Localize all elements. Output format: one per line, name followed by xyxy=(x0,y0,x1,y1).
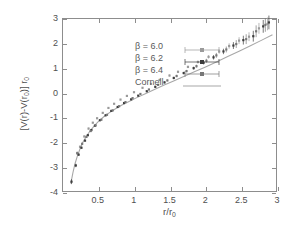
y-axis-label-text: [V(r)-V(r0)] r0 xyxy=(18,77,29,131)
y-tick-label: -4 xyxy=(50,188,58,197)
y-tick xyxy=(63,69,67,70)
x-tick-label: 0.5 xyxy=(92,196,105,205)
data-point xyxy=(264,24,266,26)
data-point xyxy=(76,152,78,154)
y-tick xyxy=(63,118,67,119)
data-point xyxy=(124,101,126,103)
legend-label: Cornell xyxy=(135,78,181,87)
y-tick xyxy=(63,19,67,20)
plot-area: β = 6.0β = 6.2β = 6.4Cornell xyxy=(62,18,277,192)
x-tick-label: 2 xyxy=(203,196,208,205)
x-tick-label: 1.5 xyxy=(163,196,176,205)
x-tick-label: 3 xyxy=(274,196,279,205)
y-tick-label: -3 xyxy=(50,163,58,172)
x-tick xyxy=(99,187,100,191)
data-point xyxy=(113,103,115,105)
legend-item-3: Cornell xyxy=(135,77,227,88)
y-tick-right xyxy=(272,118,276,119)
data-point xyxy=(238,40,240,42)
data-point xyxy=(252,35,254,37)
data-point xyxy=(112,109,114,111)
data-point xyxy=(70,181,72,183)
y-tick-right xyxy=(272,19,276,20)
data-point xyxy=(228,45,230,47)
data-point xyxy=(92,122,94,124)
data-point xyxy=(126,95,128,97)
data-point xyxy=(131,97,133,99)
legend-label: β = 6.4 xyxy=(135,66,181,75)
x-tick-top xyxy=(206,19,207,23)
y-tick-label: -1 xyxy=(50,113,58,122)
data-point xyxy=(119,99,121,101)
y-axis-tick-labels: -4-3-2-10123 xyxy=(34,18,58,192)
x-tick xyxy=(135,187,136,191)
x-axis-label-text: r/r0 xyxy=(163,206,176,217)
legend-marker-sample xyxy=(181,41,223,52)
legend-marker-sample xyxy=(181,53,223,64)
data-point xyxy=(242,39,244,41)
data-point xyxy=(258,27,260,29)
x-tick-top xyxy=(135,19,136,23)
data-point xyxy=(232,44,234,46)
y-tick xyxy=(63,143,67,144)
y-tick-right xyxy=(272,193,276,194)
y-tick-label: 0 xyxy=(53,88,58,97)
legend-item-2: β = 6.4 xyxy=(135,65,227,76)
x-tick xyxy=(278,187,279,191)
data-point xyxy=(100,119,102,121)
legend-marker-sample xyxy=(181,65,223,76)
data-point xyxy=(235,43,237,45)
data-point xyxy=(245,38,247,40)
legend: β = 6.0β = 6.2β = 6.4Cornell xyxy=(135,41,227,88)
x-tick-top xyxy=(99,19,100,23)
data-point xyxy=(83,135,85,137)
y-tick-label: 3 xyxy=(53,14,58,23)
data-point xyxy=(255,30,257,32)
x-tick xyxy=(171,187,172,191)
legend-label: β = 6.0 xyxy=(135,42,181,51)
legend-item-1: β = 6.2 xyxy=(135,53,227,64)
data-point xyxy=(95,124,97,126)
x-tick-label: 1 xyxy=(131,196,136,205)
data-point xyxy=(146,90,148,92)
data-point xyxy=(84,140,86,142)
data-point xyxy=(90,130,92,132)
legend-marker-sample xyxy=(181,77,223,88)
y-tick-right xyxy=(272,69,276,70)
y-tick-label: 2 xyxy=(53,38,58,47)
data-point xyxy=(268,21,270,23)
static-quark-potential-figure: β = 6.0β = 6.2β = 6.4Cornell 0.511.522.5… xyxy=(0,0,294,230)
x-tick-top xyxy=(242,19,243,23)
data-point xyxy=(118,105,120,107)
data-point xyxy=(81,143,83,145)
y-tick xyxy=(63,94,67,95)
y-tick-right xyxy=(272,44,276,45)
data-point xyxy=(148,88,150,90)
x-tick-top xyxy=(278,19,279,23)
y-tick-right xyxy=(272,168,276,169)
data-point xyxy=(106,114,108,116)
data-point xyxy=(262,25,264,27)
legend-item-0: β = 6.0 xyxy=(135,41,227,52)
y-tick-label: -2 xyxy=(50,138,58,147)
data-point xyxy=(139,93,141,95)
y-tick xyxy=(63,193,67,194)
data-point xyxy=(80,147,82,149)
data-point xyxy=(248,36,250,38)
y-tick xyxy=(63,44,67,45)
data-point xyxy=(102,112,104,114)
y-tick xyxy=(63,168,67,169)
data-point xyxy=(85,136,87,138)
data-point xyxy=(107,107,109,109)
y-tick-label: 1 xyxy=(53,63,58,72)
data-point xyxy=(137,95,139,97)
x-axis-label: r/r0 xyxy=(62,207,277,218)
data-point xyxy=(87,127,89,129)
data-point xyxy=(96,117,98,119)
x-tick-label: 2.5 xyxy=(235,196,248,205)
x-tick-top xyxy=(171,19,172,23)
legend-label: β = 6.2 xyxy=(135,54,181,63)
legend-line-icon xyxy=(181,80,223,91)
data-point xyxy=(75,164,77,166)
data-point xyxy=(133,91,135,93)
